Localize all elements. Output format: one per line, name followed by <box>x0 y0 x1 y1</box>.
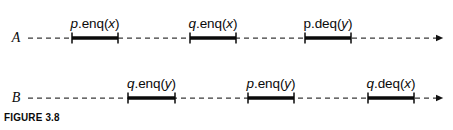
operation-label-paren: ) <box>291 76 295 91</box>
operation-label-paren: ) <box>115 16 119 31</box>
operation-label-method: .enq( <box>135 76 165 91</box>
operation-interval <box>368 93 414 104</box>
figure-caption: FIGURE 3.8 <box>4 111 60 123</box>
operation-interval <box>72 33 118 44</box>
operation-interval <box>248 93 294 104</box>
operation-interval <box>305 33 351 44</box>
operation-label-paren: ) <box>171 76 175 91</box>
operation-label: p.enq(x) <box>71 16 120 31</box>
lane-label-a: A <box>12 30 21 46</box>
operation-label: q.deq(x) <box>367 76 416 91</box>
operation-label-paren: ) <box>348 16 352 31</box>
operation-label-method: .deq( <box>374 76 404 91</box>
operation-label-paren: ) <box>411 76 415 91</box>
operation-label: p.deq(y) <box>304 16 353 31</box>
operation-label-paren: ) <box>233 16 237 31</box>
operation-label: p.enq(y) <box>247 76 296 91</box>
operation-label-method: .deq( <box>311 16 341 31</box>
operation-label: q.enq(x) <box>189 16 238 31</box>
lane-label-b: B <box>12 90 21 106</box>
operation-label-method: .enq( <box>254 76 284 91</box>
operation-label: q.enq(y) <box>127 76 176 91</box>
intervals-layer <box>72 33 414 104</box>
operation-label-method: .enq( <box>78 16 108 31</box>
operation-label-method: .enq( <box>196 16 226 31</box>
figure-container: Ap.enq(x)q.enq(x)p.deq(y)Bq.enq(y)p.enq(… <box>0 0 453 130</box>
operation-interval <box>128 93 175 104</box>
operation-interval <box>190 33 236 44</box>
